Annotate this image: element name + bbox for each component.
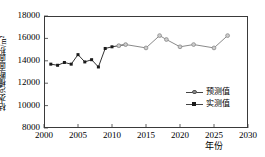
legend-item-predicted: 预测值 <box>186 86 242 98</box>
x-tick-label: 2000 <box>27 130 61 140</box>
legend-label-measured: 实测值 <box>206 98 230 110</box>
y-tick-label: 18000 <box>4 10 40 20</box>
chart-legend: 预测值 实测值 <box>186 86 242 110</box>
legend-label-predicted: 预测值 <box>206 86 230 98</box>
x-tick-label: 2030 <box>231 130 265 140</box>
plot-area <box>44 16 248 128</box>
x-tick-label: 2010 <box>95 130 129 140</box>
y-tick-label: 14000 <box>4 55 40 65</box>
y-tick-label: 16000 <box>4 32 40 42</box>
x-tick-label: 2020 <box>163 130 197 140</box>
x-tick-label: 2005 <box>61 130 95 140</box>
y-tick-label: 12000 <box>4 77 40 87</box>
legend-item-measured: 实测值 <box>186 98 242 110</box>
legend-marker-measured-icon <box>186 99 203 109</box>
legend-marker-predicted-icon <box>186 87 203 97</box>
x-tick-label: 2015 <box>129 130 163 140</box>
chart-figure: 枯水河槽断面面积/m² 8000100001200014000160001800… <box>0 0 265 157</box>
y-tick-label: 10000 <box>4 100 40 110</box>
x-axis-title: 年份 <box>205 139 223 152</box>
